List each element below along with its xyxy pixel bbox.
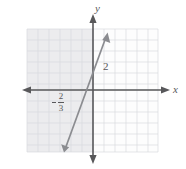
y-intercept-label: 2 <box>103 61 109 72</box>
minus-sign-icon <box>52 102 56 103</box>
axis-label-y: y <box>95 3 100 14</box>
axis-label-x: x <box>173 84 178 95</box>
fraction-numerator: 2 <box>59 92 64 101</box>
fraction: 2 3 <box>58 92 64 113</box>
coordinate-plane <box>0 0 186 169</box>
fraction-denominator: 3 <box>59 104 64 113</box>
graph-figure: y x 2 2 3 <box>0 0 186 169</box>
x-intercept-label: 2 3 <box>52 92 64 113</box>
